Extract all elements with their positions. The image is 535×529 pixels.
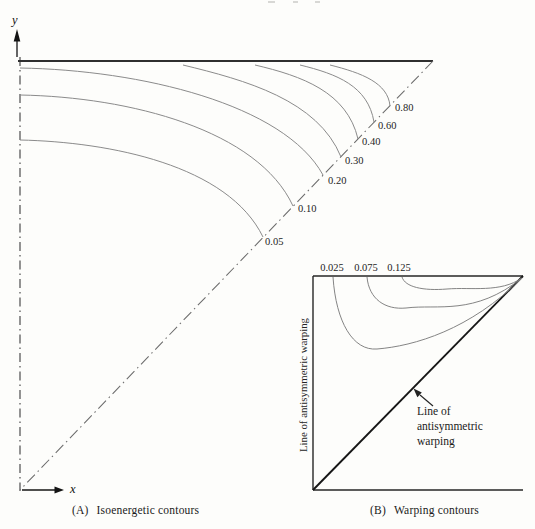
inset-contour-label-0-025: 0.025 xyxy=(320,262,344,274)
contour-label-0-30: 0.30 xyxy=(345,155,363,167)
annotation-line-2: antisymmetric xyxy=(417,419,483,434)
annotation-line-1: Line of xyxy=(417,404,483,419)
contour-0-20 xyxy=(20,68,323,175)
panel-b-caption-tag: (B) xyxy=(370,504,386,516)
inset-contour-label-0-075: 0.075 xyxy=(354,262,378,274)
panel-a-caption-tag: (A) xyxy=(72,504,89,516)
inset-diagonal xyxy=(313,276,523,490)
annotation-line-3: warping xyxy=(417,434,483,449)
y-axis-arrow xyxy=(14,29,21,57)
inset-left-axis-label: Line of antisymmetric warping xyxy=(297,318,309,452)
contour-label-0-10: 0.10 xyxy=(298,203,316,215)
contour-0-40 xyxy=(255,65,358,139)
inset-contour-label-0-125: 0.125 xyxy=(387,262,411,274)
contour-label-0-80: 0.80 xyxy=(395,102,413,114)
panel-a-caption-text: Isoenergetic contours xyxy=(97,504,200,516)
contour-0-10 xyxy=(20,95,293,206)
contour-label-0-20: 0.20 xyxy=(328,175,346,187)
y-axis-label: y xyxy=(12,14,18,28)
inset-contour-0-075 xyxy=(367,277,522,308)
contour-0-05 xyxy=(20,140,263,237)
inset-diagonal-annotation: Line of antisymmetric warping xyxy=(417,404,483,449)
contour-0-30 xyxy=(183,65,341,157)
contour-label-0-60: 0.60 xyxy=(378,120,396,132)
panel-b-caption-text: Warping contours xyxy=(394,504,479,516)
contour-0-80 xyxy=(330,65,390,106)
contour-label-0-40: 0.40 xyxy=(362,136,380,148)
inset-contour-0-125 xyxy=(402,277,522,290)
panel-b-caption: (B)Warping contours xyxy=(370,504,479,516)
contour-0-60 xyxy=(300,65,374,122)
panel-a-caption: (A)Isoenergetic contours xyxy=(72,504,199,516)
figure-linework xyxy=(0,0,535,529)
contour-label-0-05: 0.05 xyxy=(265,236,283,248)
x-axis-arrow xyxy=(22,487,64,494)
scanned-figure-page: y x 0.05 0.10 0.20 0.30 0.40 0.60 0.80 0… xyxy=(0,0,535,529)
x-axis-label: x xyxy=(70,483,76,497)
